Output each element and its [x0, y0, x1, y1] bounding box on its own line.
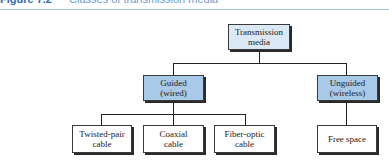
connector-level1-horizontal — [173, 63, 347, 64]
node-free-space: Free space — [317, 125, 377, 153]
node-label-line1: Twisted-pair — [79, 129, 124, 139]
node-transmission-media: Transmission media — [228, 24, 290, 50]
node-label-line1: Transmission — [235, 27, 283, 37]
node-twisted-pair-cable: Twisted-pair cable — [72, 125, 132, 153]
node-fiber-optic-cable: Fiber-optic cable — [214, 125, 275, 153]
caption-divider — [0, 9, 389, 10]
node-label-line1: Unguided — [330, 78, 366, 88]
node-label-line1: Coaxial — [160, 129, 188, 139]
connector-guided-down — [173, 101, 174, 114]
figure-title: Classes of transmission media — [69, 0, 218, 5]
node-label-line2: cable — [160, 139, 188, 149]
node-label-line2: cable — [79, 139, 124, 149]
node-label-line1: Free space — [328, 134, 366, 144]
connector-fiber-up — [245, 114, 246, 125]
connector-unguided-down — [346, 101, 347, 125]
node-unguided: Unguided (wireless) — [317, 75, 378, 101]
figure-caption: Figure 7.2 Classes of transmission media — [0, 0, 218, 5]
node-label-line1: Fiber-optic — [225, 129, 265, 139]
figure-label: Figure 7.2 — [0, 0, 52, 5]
connector-unguided-up — [346, 63, 347, 75]
node-label-line2: cable — [225, 139, 265, 149]
node-coaxial-cable: Coaxial cable — [143, 125, 204, 153]
node-label-line2: (wired) — [160, 88, 187, 98]
node-label-line1: Guided — [160, 78, 187, 88]
connector-coaxial-up — [173, 114, 174, 125]
connector-root-down — [259, 50, 260, 63]
node-label-line2: (wireless) — [330, 88, 366, 98]
node-guided: Guided (wired) — [143, 75, 204, 101]
connector-guided-up — [173, 63, 174, 75]
connector-twisted-up — [101, 114, 102, 125]
node-label-line2: media — [235, 37, 283, 47]
